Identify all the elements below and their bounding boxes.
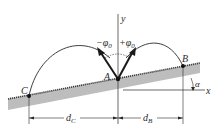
dim-arrow-b-left <box>118 117 123 120</box>
point-c-label: C <box>21 85 28 96</box>
arrow-plus-phi <box>118 53 132 79</box>
plus-phi-label: +φ0 <box>119 37 135 50</box>
incline-diagram: y x −φ0 +φ0 A B C α dC dB <box>0 0 217 132</box>
dim-arrow-b-right <box>178 117 183 120</box>
point-b-label: B <box>182 53 188 64</box>
minus-phi-label: −φ0 <box>96 37 112 50</box>
point-b <box>181 64 185 68</box>
arrow-minus-phi-head <box>97 47 105 56</box>
y-axis-label: y <box>120 13 126 24</box>
dim-arrow-c-right <box>113 117 118 120</box>
x-axis-label: x <box>205 85 211 96</box>
dim-arrow-c-left <box>29 117 34 120</box>
point-a <box>116 77 120 81</box>
point-a-label: A <box>103 71 111 82</box>
alpha-label: α <box>195 79 200 89</box>
